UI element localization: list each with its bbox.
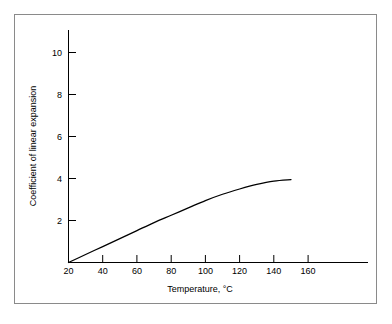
y-tick-label-2: 2 [57, 216, 62, 226]
figure-container: 10 8 6 4 2 20 40 60 80 100 120 140 160 [0, 0, 392, 324]
x-tick-label-160: 160 [301, 266, 316, 276]
x-tick-label-100: 100 [198, 266, 213, 276]
y-axis-ticks [69, 53, 77, 221]
x-axis-title: Temperature, °C [167, 284, 233, 294]
x-tick-label-20: 20 [63, 266, 73, 276]
y-axis-title: Coefficient of linear expansion [28, 86, 38, 206]
y-axis-tick-labels: 10 8 6 4 2 [52, 48, 62, 226]
x-tick-label-120: 120 [232, 266, 247, 276]
y-tick-label-8: 8 [57, 90, 62, 100]
x-tick-label-140: 140 [266, 266, 281, 276]
x-axis-tick-labels: 20 40 60 80 100 120 140 160 [63, 266, 315, 276]
x-tick-label-80: 80 [166, 266, 176, 276]
data-series-line [69, 180, 291, 263]
y-tick-label-10: 10 [52, 48, 62, 58]
y-tick-label-6: 6 [57, 132, 62, 142]
x-tick-label-60: 60 [132, 266, 142, 276]
chart-plot-area: 10 8 6 4 2 20 40 60 80 100 120 140 160 [0, 0, 392, 324]
y-tick-label-4: 4 [57, 174, 62, 184]
x-tick-label-40: 40 [98, 266, 108, 276]
x-axis-ticks [69, 255, 309, 263]
